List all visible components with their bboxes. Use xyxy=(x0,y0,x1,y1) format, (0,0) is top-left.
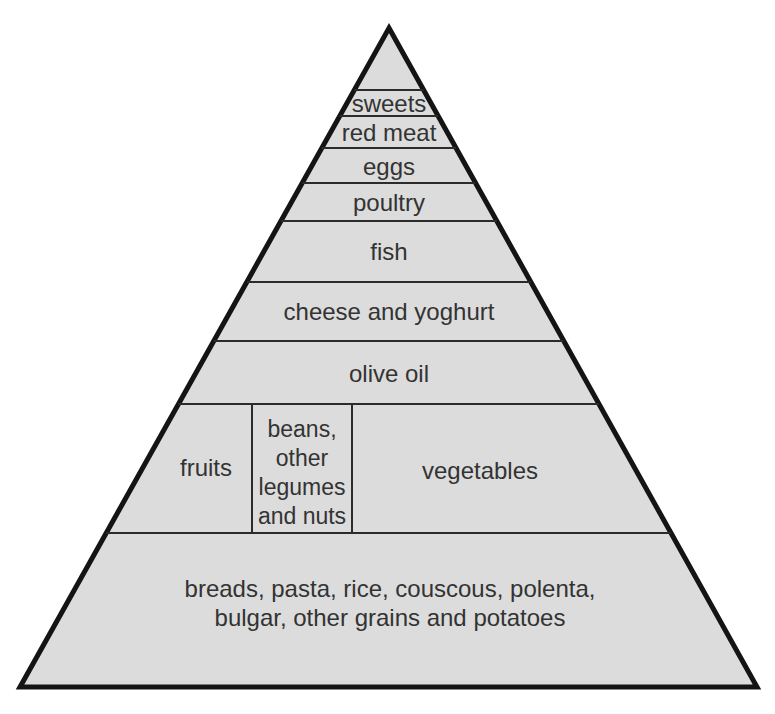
level-red-meat-label: red meat xyxy=(342,119,437,146)
level-fish-label: fish xyxy=(370,238,407,265)
level-cheese-yoghurt-label: cheese and yoghurt xyxy=(284,298,495,325)
level-poultry-label: poultry xyxy=(353,189,425,216)
svg-text:and nuts: and nuts xyxy=(258,503,346,529)
svg-text:breads, pasta, rice, couscous,: breads, pasta, rice, couscous, polenta, xyxy=(185,575,596,602)
level-olive-oil-label: olive oil xyxy=(349,360,429,387)
cell-vegetables-label: vegetables xyxy=(422,457,538,484)
svg-text:other: other xyxy=(276,445,329,471)
pyramid-svg: sweets red meat eggs poultry fish cheese… xyxy=(0,0,775,714)
food-pyramid-diagram: sweets red meat eggs poultry fish cheese… xyxy=(0,0,775,714)
level-sweets-label: sweets xyxy=(352,90,427,117)
svg-text:bulgar, other grains and potat: bulgar, other grains and potatoes xyxy=(215,604,566,631)
svg-text:legumes: legumes xyxy=(259,474,346,500)
level-eggs-label: eggs xyxy=(363,153,415,180)
svg-text:beans,: beans, xyxy=(267,416,336,442)
cell-fruits-label: fruits xyxy=(180,454,232,481)
